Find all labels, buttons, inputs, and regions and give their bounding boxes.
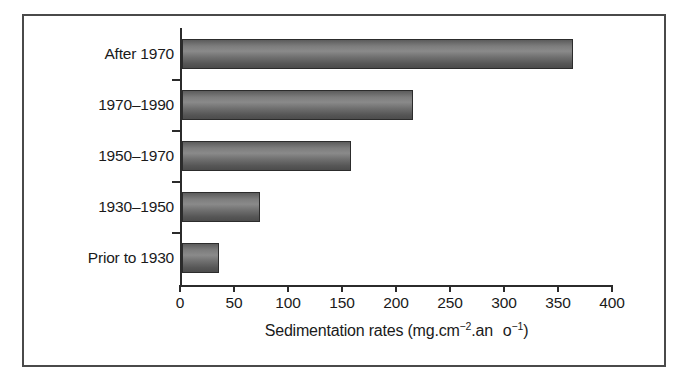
bar-1950-1970 (182, 141, 351, 171)
bar-after-1970 (182, 39, 573, 69)
bar-1970-1990 (182, 90, 413, 120)
x-axis-tick (557, 285, 559, 292)
x-axis-tick-label: 200 (371, 294, 421, 312)
x-axis-tick-label: 300 (479, 294, 529, 312)
x-axis-title-close-paren: ) (523, 322, 528, 339)
category-label-1950-1970: 1950–1970 (16, 147, 174, 165)
x-axis-title-superscript-minus1: −1 (512, 320, 524, 332)
x-axis-title-main: Sedimentation rates (mg.cm (265, 322, 460, 339)
x-axis-tick-label: 100 (263, 294, 313, 312)
x-axis-tick-label: 400 (587, 294, 637, 312)
x-axis-tick (503, 285, 505, 292)
category-label-1970-1990: 1970–1990 (16, 96, 174, 114)
category-label-prior-to-1930: Prior to 1930 (16, 249, 174, 267)
y-axis-tick (172, 181, 180, 183)
y-axis-tick (172, 232, 180, 234)
category-label-1930-1950: 1930–1950 (16, 198, 174, 216)
x-axis-title-mid: .an (471, 322, 493, 339)
bar-prior-to-1930 (182, 243, 219, 273)
x-axis-tick (287, 285, 289, 292)
x-axis-tick-label: 150 (317, 294, 367, 312)
x-axis-title-o: o (503, 322, 512, 339)
x-axis-title: Sedimentation rates (mg.cm−2.ano−1) (180, 322, 613, 340)
x-axis-tick (611, 285, 613, 292)
x-axis-tick-label: 350 (533, 294, 583, 312)
x-axis-tick (449, 285, 451, 292)
category-label-after-1970: After 1970 (16, 45, 174, 63)
y-axis-tick (172, 79, 180, 81)
x-axis-tick-label: 50 (209, 294, 259, 312)
x-axis-tick (395, 285, 397, 292)
x-axis-tick (341, 285, 343, 292)
y-axis-tick (172, 130, 180, 132)
x-axis-tick-label: 0 (155, 294, 205, 312)
figure-container: After 1970 1970–1990 1950–1970 1930–1950… (0, 0, 683, 387)
x-axis-title-superscript-minus2: −2 (460, 320, 472, 332)
bar-1930-1950 (182, 192, 260, 222)
x-axis-tick (179, 285, 181, 292)
x-axis-tick-label: 250 (425, 294, 475, 312)
x-axis-tick (233, 285, 235, 292)
bar-chart-plot: After 1970 1970–1990 1950–1970 1930–1950… (0, 0, 683, 387)
